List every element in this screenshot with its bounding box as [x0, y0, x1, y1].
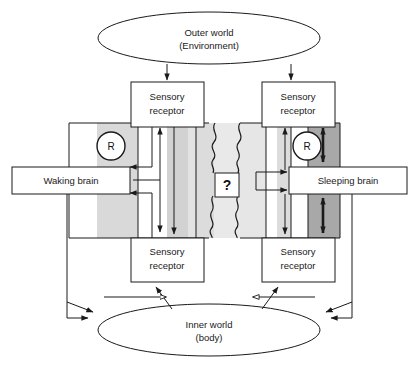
waking-brain-node: Waking brain: [12, 167, 130, 194]
arrow-inner-to-sr-bottom-right: [262, 287, 278, 309]
outer-world-label-line1: Outer world: [184, 27, 233, 38]
left-band-inner: [167, 123, 188, 238]
reticular-right: R: [293, 132, 321, 160]
sensory-receptor-bottom-right: Sensory receptor: [262, 238, 335, 282]
sr-top-right-line1: Sensory: [281, 91, 316, 102]
sensory-receptor-top-right: Sensory receptor: [262, 82, 335, 127]
inner-world-label-line1: Inner world: [186, 319, 233, 330]
right-band-light: [240, 123, 266, 238]
left-band-edge: [188, 123, 196, 238]
reticular-left: R: [97, 132, 125, 160]
unknown-gate-node: ?: [215, 173, 239, 197]
waking-brain-label: Waking brain: [43, 175, 98, 186]
sr-top-right-line2: receptor: [281, 105, 316, 116]
diagram-canvas: Outer world (Environment) Sensory recept…: [0, 0, 419, 366]
sr-bottom-right-line2: receptor: [281, 260, 316, 271]
reticular-left-label: R: [107, 141, 114, 152]
center-band-left: [196, 123, 214, 238]
inner-world-label-line2: (body): [196, 332, 223, 343]
arrow-sleeping-loop-diagonal: [326, 302, 352, 312]
sr-top-left-line1: Sensory: [150, 91, 185, 102]
outer-world-label-line2: (Environment): [179, 40, 239, 51]
reticular-right-label: R: [303, 141, 310, 152]
sr-bottom-left-line1: Sensory: [150, 246, 185, 257]
outer-world-ellipse: [98, 12, 320, 64]
sleeping-brain-node: Sleeping brain: [289, 167, 407, 194]
arrow-waking-loop-diagonal: [67, 302, 93, 312]
sleeping-brain-label: Sleeping brain: [318, 175, 379, 186]
sensory-receptor-top-left: Sensory receptor: [131, 82, 204, 127]
inner-world-node: Inner world (body): [98, 304, 320, 356]
inner-world-ellipse: [98, 304, 320, 356]
sr-bottom-left-line2: receptor: [150, 260, 185, 271]
sr-bottom-right-line1: Sensory: [281, 246, 316, 257]
unknown-gate-label: ?: [223, 177, 232, 193]
sensory-receptor-bottom-left: Sensory receptor: [131, 238, 204, 282]
sr-top-left-line2: receptor: [150, 105, 185, 116]
outer-world-node: Outer world (Environment): [98, 12, 320, 64]
